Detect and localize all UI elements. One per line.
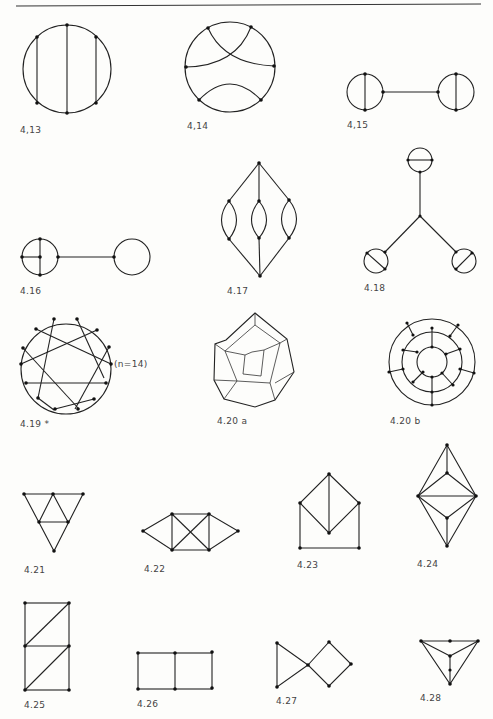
figure-4-20b: 4.20 b: [387, 319, 475, 426]
figure-4-19: (n=14) 4.19 *: [19, 317, 147, 429]
figure-4-17: 4.17: [222, 161, 297, 296]
figure-4-21: 4.21: [22, 492, 85, 575]
figure-4-23: 4.23: [297, 472, 361, 570]
figure-label: 4.19 *: [20, 419, 49, 429]
figure-4-26: 4.26: [136, 650, 214, 709]
figure-label: 4.28: [420, 693, 441, 703]
figure-4-14: 4,14: [184, 22, 276, 131]
figure-4-22: 4.22: [141, 512, 240, 574]
figure-label: 4.24: [417, 559, 438, 569]
figure-4-24: 4.24: [416, 443, 478, 569]
figure-label: 4.17: [227, 286, 248, 296]
figure-4-20a: 4.20 a: [214, 313, 294, 426]
graph-figure-page: 4,13 4,14 4,15 4.16: [0, 0, 493, 719]
figure-4-25: 4.25: [23, 601, 71, 710]
figure-label: 4.18: [364, 283, 385, 293]
header-rule: [16, 4, 481, 6]
figure-label: 4.16: [20, 286, 41, 296]
figure-4-28: 4.28: [419, 639, 480, 703]
figure-label: 4.25: [24, 700, 45, 710]
figure-label: 4.20 b: [390, 416, 420, 426]
figure-4-15: 4,15: [347, 72, 474, 130]
figure-label: 4.20 a: [217, 416, 247, 426]
annotation: (n=14): [114, 359, 148, 369]
figure-label: 4,14: [187, 121, 208, 131]
figure-label: 4.27: [276, 696, 297, 706]
figure-4-18: 4.18: [364, 148, 476, 293]
figure-label: 4.26: [137, 699, 158, 709]
figure-4-13: 4,13: [20, 23, 111, 135]
figure-4-27: 4.27: [275, 640, 353, 706]
figure-4-16: 4.16: [20, 237, 150, 296]
figure-label: 4,13: [20, 125, 41, 135]
figure-label: 4.22: [144, 564, 165, 574]
figure-label: 4,15: [347, 120, 368, 130]
figure-label: 4.21: [24, 565, 45, 575]
figure-label: 4.23: [297, 560, 318, 570]
